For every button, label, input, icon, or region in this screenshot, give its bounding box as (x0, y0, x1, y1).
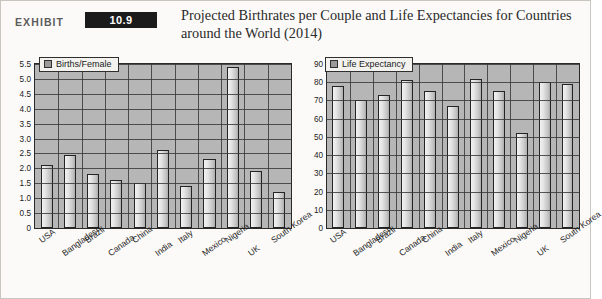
gridline-vertical (151, 64, 152, 228)
gridline-horizontal (35, 94, 291, 95)
x-tick-label: India (443, 239, 464, 258)
gridline-horizontal (35, 124, 291, 125)
legend-label-right: Life Expectancy (342, 59, 406, 69)
y-tick-label: 3.5 (20, 120, 31, 129)
bar-series-right (327, 64, 579, 228)
y-tick-label: 0 (26, 224, 31, 233)
bar (180, 186, 192, 228)
y-tick-label: 3.0 (20, 135, 31, 144)
bar (110, 180, 122, 228)
legend-left: Births/Female (39, 57, 119, 72)
y-tick-label: 30 (314, 169, 323, 178)
x-tick-label: UK (535, 243, 551, 258)
plot-area-left (34, 63, 292, 229)
y-tick-label: 5.5 (20, 60, 31, 69)
exhibit-label: EXHIBIT (15, 16, 64, 28)
gridline-vertical (373, 64, 374, 228)
gridline-vertical (105, 64, 106, 228)
y-tick-label: 10 (314, 206, 323, 215)
gridline-vertical (556, 64, 557, 228)
chart-life-expectancy: 0102030405060708090 Life Expectancy USAB… (299, 59, 587, 294)
bar (378, 95, 390, 228)
y-tick-label: 40 (314, 151, 323, 160)
legend-right: Life Expectancy (325, 57, 413, 72)
plot-area-right (326, 63, 580, 229)
gridline-vertical (487, 64, 488, 228)
bar (493, 91, 505, 228)
x-axis-labels-left: USABangladeshBrazilCanadaChinaIndiaItaly… (7, 235, 297, 295)
exhibit-title: Projected Birthrates per Couple and Life… (181, 7, 581, 42)
gridline-horizontal (327, 100, 579, 101)
gridline-horizontal (35, 79, 291, 80)
y-tick-label: 0 (318, 224, 323, 233)
gridline-horizontal (35, 198, 291, 199)
gridline-vertical (82, 64, 83, 228)
gridline-vertical (510, 64, 511, 228)
x-axis-labels-right: USABangladeshBrazilCanadaChinaIndiaItaly… (299, 235, 587, 295)
x-tick-label: India (153, 239, 174, 258)
bar (516, 133, 528, 228)
gridline-horizontal (327, 82, 579, 83)
gridline-vertical (442, 64, 443, 228)
gridline-horizontal (35, 183, 291, 184)
gridline-vertical (533, 64, 534, 228)
y-tick-label: 70 (314, 96, 323, 105)
y-axis-labels-left: 00.51.01.52.02.53.03.54.04.55.05.5 (7, 59, 33, 229)
gridline-horizontal (35, 153, 291, 154)
y-tick-label: 20 (314, 188, 323, 197)
gridline-horizontal (35, 109, 291, 110)
y-tick-label: 80 (314, 78, 323, 87)
exhibit-header: EXHIBIT 10.9 Projected Birthrates per Co… (1, 7, 592, 53)
legend-swatch-icon (330, 60, 338, 68)
x-tick-label: UK (246, 243, 262, 258)
gridline-horizontal (327, 155, 579, 156)
bar (562, 84, 574, 228)
y-axis-labels-right: 0102030405060708090 (299, 59, 325, 229)
gridline-vertical (128, 64, 129, 228)
gridline-vertical (221, 64, 222, 228)
plot-area-wrapper-left: 00.51.01.52.02.53.03.54.04.55.05.5 Birth… (7, 59, 297, 239)
gridline-horizontal (35, 213, 291, 214)
gridline-horizontal (327, 173, 579, 174)
bar (134, 183, 146, 228)
y-tick-label: 1.0 (20, 194, 31, 203)
bar (157, 150, 169, 228)
bar-series-left (35, 64, 291, 228)
y-tick-label: 0.5 (20, 209, 31, 218)
gridline-vertical (58, 64, 59, 228)
bar (64, 155, 76, 228)
bar (203, 159, 215, 228)
gridline-vertical (419, 64, 420, 228)
gridline-vertical (175, 64, 176, 228)
gridline-vertical (350, 64, 351, 228)
gridline-vertical (464, 64, 465, 228)
gridline-vertical (244, 64, 245, 228)
y-tick-label: 2.0 (20, 164, 31, 173)
chart-births-per-female: 00.51.01.52.02.53.03.54.04.55.05.5 Birth… (7, 59, 297, 294)
gridline-horizontal (327, 137, 579, 138)
y-tick-label: 4.0 (20, 105, 31, 114)
gridline-vertical (198, 64, 199, 228)
gridline-vertical (268, 64, 269, 228)
plot-area-wrapper-right: 0102030405060708090 Life Expectancy (299, 59, 587, 239)
bar (424, 91, 436, 228)
bar (332, 86, 344, 228)
y-tick-label: 4.5 (20, 90, 31, 99)
y-tick-label: 2.5 (20, 149, 31, 158)
y-tick-label: 1.5 (20, 179, 31, 188)
y-tick-label: 50 (314, 133, 323, 142)
bar (250, 171, 262, 228)
y-tick-label: 5.0 (20, 75, 31, 84)
gridline-horizontal (35, 168, 291, 169)
y-tick-label: 90 (314, 60, 323, 69)
gridline-vertical (396, 64, 397, 228)
y-tick-label: 60 (314, 115, 323, 124)
bar (227, 67, 239, 228)
legend-label-left: Births/Female (56, 59, 112, 69)
gridline-horizontal (35, 139, 291, 140)
gridline-horizontal (327, 210, 579, 211)
gridline-horizontal (327, 192, 579, 193)
exhibit-number-text: 10.9 (85, 12, 157, 28)
exhibit-number-badge: 10.9 (85, 12, 157, 28)
